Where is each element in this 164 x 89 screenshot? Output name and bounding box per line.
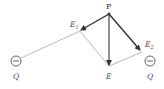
point-p-dot bbox=[108, 13, 111, 16]
vector-e2-arrow bbox=[109, 14, 140, 50]
vector-e1-arrow bbox=[81, 14, 109, 30]
construction-line-e1-to-e bbox=[80, 31, 109, 66]
vector-e1-label: E1 bbox=[69, 20, 79, 30]
construction-line-e-to-e2 bbox=[109, 52, 142, 66]
charge-right: Q bbox=[145, 56, 155, 81]
point-p-label: P bbox=[106, 2, 112, 11]
charge-right-label: Q bbox=[147, 72, 153, 81]
charge-left: Q bbox=[11, 56, 21, 81]
charge-left-label: Q bbox=[13, 72, 19, 81]
electric-field-diagram: P E1 E2 E Q Q bbox=[0, 0, 164, 89]
vector-e-label: E bbox=[105, 72, 112, 81]
vector-e2-label: E2 bbox=[144, 40, 154, 50]
diagram-canvas: P E1 E2 E Q Q bbox=[0, 0, 164, 89]
construction-line-left-charge-to-e1 bbox=[21, 31, 80, 58]
